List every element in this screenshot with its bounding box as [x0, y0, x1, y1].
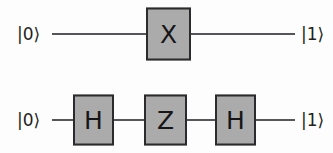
input-ket-row-2: |0⟩ — [17, 112, 40, 129]
wire-segment-row-1-right — [191, 33, 295, 35]
quantum-circuit-diagram: |0⟩ X |1⟩ |0⟩ H Z H |1⟩ — [0, 0, 333, 153]
output-ket-row-2: |1⟩ — [301, 112, 324, 129]
wire-segment-row-2-d — [256, 119, 295, 121]
wire-segment-row-2-a — [52, 119, 73, 121]
gate-x-row-1[interactable]: X — [146, 8, 191, 61]
input-ket-row-1: |0⟩ — [17, 26, 40, 43]
gate-z-row-2[interactable]: Z — [144, 95, 187, 146]
gate-h-row-2-first-label: H — [84, 108, 103, 133]
wire-segment-row-2-c — [187, 119, 215, 121]
wire-segment-row-2-b — [114, 119, 144, 121]
output-ket-row-1: |1⟩ — [301, 26, 324, 43]
gate-x-row-1-label: X — [160, 22, 177, 47]
gate-z-row-2-label: Z — [157, 108, 174, 133]
wire-segment-row-1-left — [52, 33, 146, 35]
gate-h-row-2-first[interactable]: H — [73, 95, 114, 146]
gate-h-row-2-second[interactable]: H — [215, 95, 256, 146]
gate-h-row-2-second-label: H — [226, 108, 245, 133]
